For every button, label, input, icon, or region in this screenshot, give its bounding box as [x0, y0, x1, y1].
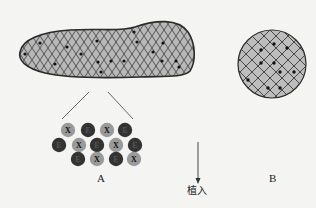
cell-e: E — [118, 123, 132, 137]
svg-text:X: X — [94, 155, 100, 164]
diagram-canvas: XEXEEXEXEEXEX A B 植入 — [0, 0, 316, 208]
svg-text:X: X — [131, 155, 137, 164]
cell-x: X — [100, 123, 114, 137]
svg-text:E: E — [56, 141, 61, 150]
svg-text:E: E — [122, 126, 127, 135]
label-A: A — [97, 173, 105, 184]
svg-text:X: X — [104, 126, 110, 135]
svg-text:E: E — [113, 155, 118, 164]
fan-line-left — [62, 92, 89, 119]
label-B: B — [269, 173, 276, 184]
tissue-blob — [20, 22, 195, 78]
svg-text:X: X — [76, 141, 82, 150]
svg-text:E: E — [94, 141, 99, 150]
svg-text:E: E — [75, 155, 80, 164]
cell-x: X — [109, 138, 123, 152]
fan-lines — [62, 92, 133, 119]
svg-text:X: X — [113, 141, 119, 150]
cell-cluster-A: XEXEEXEXEEXEX — [52, 123, 142, 166]
svg-text:E: E — [85, 126, 90, 135]
cell-x: X — [72, 138, 86, 152]
implant-arrow — [196, 142, 201, 184]
cell-e: E — [81, 123, 95, 137]
cell-e: E — [128, 138, 142, 152]
cell-x: X — [90, 152, 104, 166]
svg-text:E: E — [132, 141, 137, 150]
svg-text:X: X — [65, 126, 71, 135]
cell-e: E — [90, 138, 104, 152]
fan-line-right — [108, 92, 133, 119]
cell-e: E — [71, 152, 85, 166]
cell-x: X — [127, 152, 141, 166]
implant-label: 植入 — [187, 186, 207, 196]
cell-e: E — [109, 152, 123, 166]
graft-disc-B — [238, 30, 306, 98]
cell-x: X — [61, 123, 75, 137]
cell-e: E — [52, 138, 66, 152]
